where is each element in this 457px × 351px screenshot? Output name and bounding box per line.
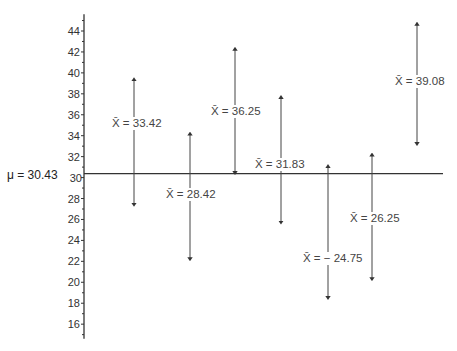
interval-arrows: X̄ = 33.42X̄ = 28.42X̄ = 36.25X̄ = 31.83… — [111, 24, 456, 298]
tick-label-30: 30 — [70, 172, 82, 184]
interval-7: X̄ = 39.08 — [394, 24, 456, 144]
tick-label-24: 24 — [68, 234, 80, 246]
sample-mean-label: X̄ = 36.25 — [211, 105, 261, 117]
y-axis: 161820222426283032343638404244 — [68, 14, 84, 339]
mu-label: μ = 30.43 — [7, 168, 58, 182]
sample-mean-label: X̄ = 31.83 — [255, 158, 305, 170]
sample-mean-label: X̄ = 33.42 — [112, 117, 162, 129]
tick-label-18: 18 — [68, 297, 80, 309]
interval-1: X̄ = 33.42 — [111, 79, 173, 205]
tick-label-36: 36 — [68, 109, 80, 121]
sample-mean-label: X̄ = 26.25 — [350, 212, 400, 224]
sample-mean-label: X̄ = − 24.75 — [303, 252, 362, 264]
tick-label-32: 32 — [68, 151, 80, 163]
tick-label-42: 42 — [68, 46, 80, 58]
tick-label-20: 20 — [68, 276, 80, 288]
tick-label-38: 38 — [68, 88, 80, 100]
confidence-interval-diagram: 161820222426283032343638404244 μ = 30.43… — [0, 0, 457, 351]
interval-5: X̄ = − 24.75 — [302, 166, 376, 298]
sample-mean-label: X̄ = 39.08 — [395, 75, 445, 87]
interval-2: X̄ = 28.42 — [165, 134, 227, 260]
tick-label-22: 22 — [68, 255, 80, 267]
tick-label-44: 44 — [68, 25, 80, 37]
tick-label-28: 28 — [68, 193, 80, 205]
sample-mean-label: X̄ = 28.42 — [166, 188, 216, 200]
tick-label-16: 16 — [68, 318, 80, 330]
tick-label-40: 40 — [68, 67, 80, 79]
tick-label-26: 26 — [68, 213, 80, 225]
interval-3: X̄ = 36.25 — [210, 49, 272, 173]
tick-label-34: 34 — [68, 130, 80, 142]
